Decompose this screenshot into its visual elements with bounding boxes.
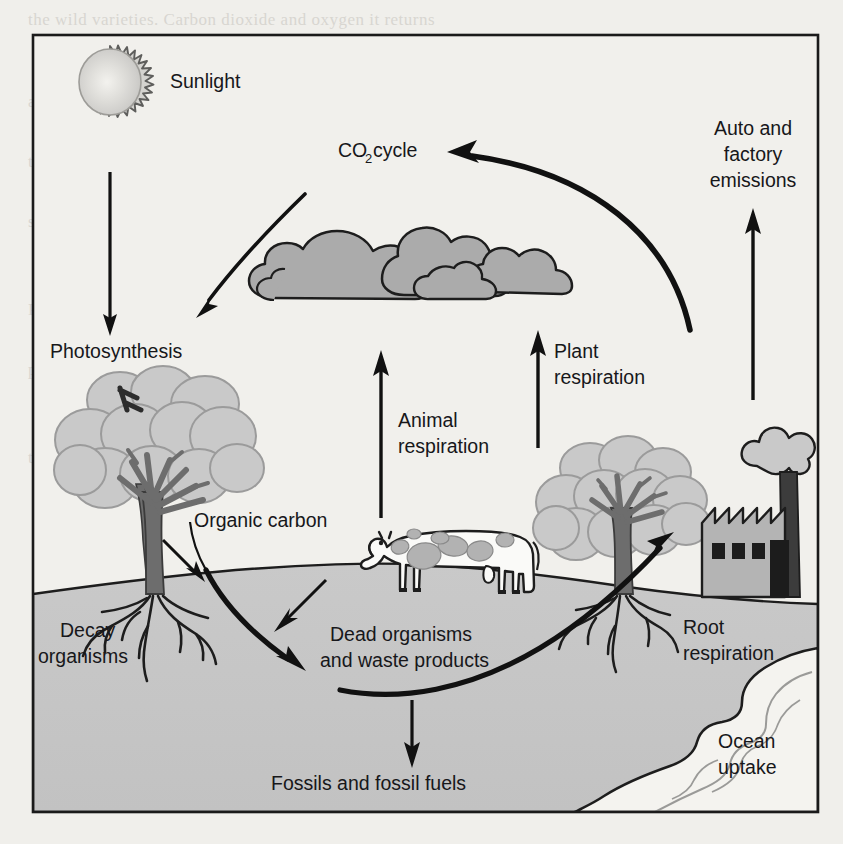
label-co2-suffix: cycle <box>373 139 417 161</box>
label-animal-respiration-2: respiration <box>398 435 489 457</box>
label-dead-organisms-2: and waste products <box>320 649 489 671</box>
label-plant-respiration-1: Plant <box>554 340 599 362</box>
label-photosynthesis: Photosynthesis <box>50 340 182 362</box>
label-root-respiration-2: respiration <box>683 642 774 664</box>
svg-text:CO: CO <box>338 139 367 161</box>
carbon-cycle-figure: Sunlight CO 2 cycle Auto and factory emi… <box>0 0 843 844</box>
label-decay-2: organisms <box>38 645 128 667</box>
label-co2-subscript: 2 <box>365 151 372 166</box>
label-ocean-uptake-1: Ocean <box>718 730 775 752</box>
label-root-respiration-1: Root <box>683 616 725 638</box>
label-animal-respiration-1: Animal <box>398 409 458 431</box>
label-organic-carbon: Organic carbon <box>194 509 327 531</box>
label-auto-factory-1: Auto and <box>714 117 792 139</box>
label-sunlight: Sunlight <box>170 70 241 92</box>
label-fossils: Fossils and fossil fuels <box>271 772 466 794</box>
label-auto-factory-2: factory <box>724 143 783 165</box>
label-auto-factory-3: emissions <box>710 169 797 191</box>
label-ocean-uptake-2: uptake <box>718 756 777 778</box>
label-plant-respiration-2: respiration <box>554 366 645 388</box>
label-decay-1: Decay <box>60 619 116 641</box>
label-dead-organisms-1: Dead organisms <box>330 623 472 645</box>
